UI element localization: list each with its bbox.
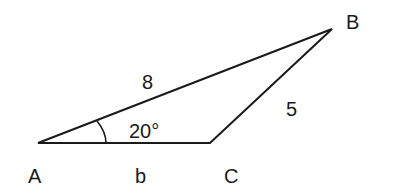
triangle-diagram: B 8 5 20° A b C	[0, 0, 397, 195]
side-label-ac: b	[135, 166, 146, 186]
triangle-figure	[0, 0, 397, 195]
vertex-label-a: A	[28, 166, 41, 186]
triangle-abc	[38, 29, 332, 143]
vertex-label-b: B	[346, 12, 359, 32]
side-label-bc: 5	[286, 99, 297, 119]
side-label-ab: 8	[142, 72, 153, 92]
vertex-label-c: C	[224, 166, 238, 186]
angle-a-arc	[97, 121, 106, 143]
angle-label-a: 20°	[129, 121, 159, 141]
